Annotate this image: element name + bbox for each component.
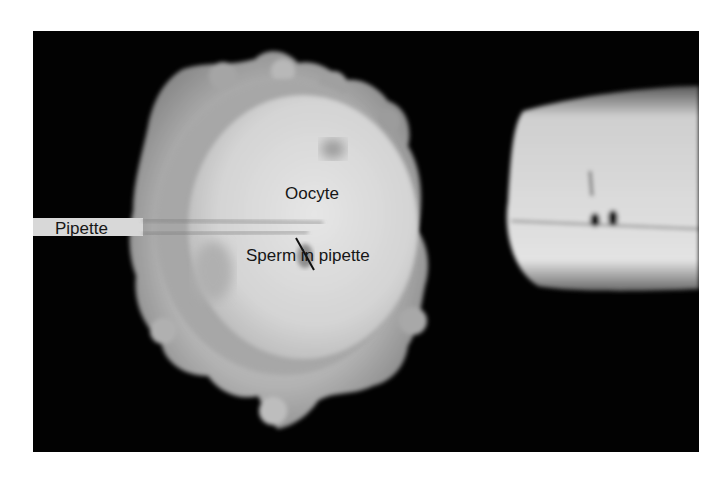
micrograph-image: [33, 31, 699, 452]
oocyte-label: Oocyte: [285, 185, 339, 202]
sperm-label: Sperm in pipette: [246, 247, 370, 264]
micrograph-frame: Pipette Oocyte Sperm in pipette: [33, 31, 699, 452]
pipette-label: Pipette: [55, 220, 108, 237]
holding-pipette: [507, 86, 699, 291]
oocyte-body: [188, 95, 418, 359]
